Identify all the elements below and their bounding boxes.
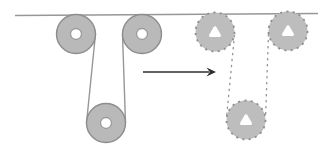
ghost-pulley-top-right — [269, 12, 308, 51]
rope-horizontal — [15, 14, 318, 16]
pulley-top-right — [123, 15, 162, 54]
rope-left-segment-b — [123, 34, 126, 123]
pulley-axle-hole — [71, 29, 82, 40]
ghost-pulley-top-left — [196, 13, 235, 52]
transform-arrow — [143, 67, 216, 76]
ghost-pulley-bottom — [227, 101, 266, 140]
pulley-diagram-canvas — [0, 0, 328, 152]
pulley-top-left — [57, 15, 96, 54]
pulley-axle-hole — [101, 118, 112, 129]
pulley-bottom — [87, 104, 126, 143]
ghost-rope-segment-b — [266, 34, 269, 118]
pulley-axle-hole — [137, 29, 148, 40]
pulley-diagram-figure — [0, 0, 328, 152]
